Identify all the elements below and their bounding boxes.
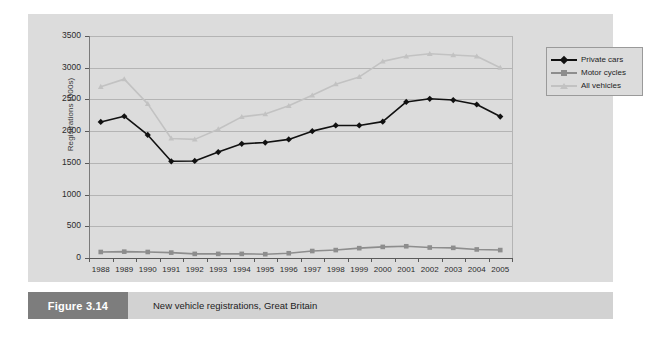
data-point (380, 245, 385, 250)
plot-right-border (512, 36, 513, 258)
data-point (310, 249, 315, 254)
data-point (451, 246, 456, 251)
data-point (239, 141, 245, 147)
figure-number-label: Figure 3.14 (48, 300, 108, 312)
data-point (262, 139, 268, 145)
data-point (333, 248, 338, 253)
data-point (122, 249, 127, 254)
y-tick-label: 1500 (47, 157, 81, 167)
legend-item-all-vehicles[interactable]: All vehicles (551, 79, 639, 92)
legend-label: Private cars (581, 55, 623, 64)
data-point (239, 252, 244, 257)
data-point (121, 76, 127, 81)
data-point (427, 96, 433, 102)
data-point (356, 122, 362, 128)
figure-number-badge: Figure 3.14 (28, 292, 128, 319)
y-tick-label: 0 (47, 252, 81, 262)
series-private-cars (98, 96, 504, 165)
series-all-vehicles (98, 51, 503, 142)
series-layer (89, 36, 512, 258)
data-point (286, 136, 292, 142)
y-tick-label: 2500 (47, 93, 81, 103)
y-tick-label: 1000 (47, 189, 81, 199)
data-point (192, 158, 198, 164)
x-tick-label: 2005 (485, 265, 515, 274)
data-point (216, 252, 221, 257)
legend: Private carsMotor cyclesAll vehicles (546, 47, 643, 96)
legend-item-motor-cycles[interactable]: Motor cycles (551, 66, 639, 79)
data-point (98, 119, 104, 125)
data-point (192, 252, 197, 257)
data-point (450, 97, 456, 103)
x-axis-line (89, 258, 513, 259)
figure-caption-bar: Figure 3.14 New vehicle registrations, G… (28, 292, 613, 319)
chart-panel: Registrations (000s) 0500100015002000250… (28, 14, 613, 282)
data-point (215, 149, 221, 155)
figure-caption-text: New vehicle registrations, Great Britain (153, 292, 317, 319)
plot-area: 0500100015002000250030003500 19881989199… (89, 36, 512, 258)
y-tick-label: 2000 (47, 125, 81, 135)
legend-label: All vehicles (581, 81, 621, 90)
series-line (101, 246, 501, 254)
series-line (101, 54, 501, 140)
data-point (427, 245, 432, 250)
data-point (333, 122, 339, 128)
data-point (309, 128, 315, 134)
y-tick-label: 500 (47, 220, 81, 230)
legend-triangle-icon (551, 80, 577, 92)
data-point (474, 101, 480, 107)
legend-label: Motor cycles (581, 68, 626, 77)
data-point (145, 250, 150, 255)
data-point (497, 113, 503, 119)
legend-diamond-icon (551, 54, 577, 66)
data-point (498, 248, 503, 253)
data-point (169, 250, 174, 255)
legend-square-icon (551, 67, 577, 79)
data-point (357, 246, 362, 251)
legend-item-private-cars[interactable]: Private cars (551, 53, 639, 66)
data-point (474, 247, 479, 252)
series-motor-cycles (98, 244, 502, 257)
y-tick-label: 3000 (47, 62, 81, 72)
series-line (101, 99, 501, 161)
data-point (286, 251, 291, 256)
data-point (263, 252, 268, 257)
figure-container: Registrations (000s) 0500100015002000250… (0, 0, 645, 344)
data-point (98, 250, 103, 255)
y-tick-label: 3500 (47, 30, 81, 40)
data-point (404, 244, 409, 249)
